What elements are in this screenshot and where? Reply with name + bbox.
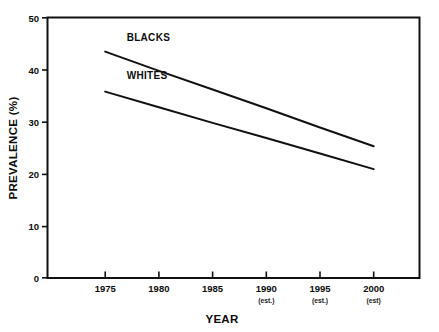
y-tick-label-0: 0 [34, 273, 39, 284]
y-tick-label-10: 10 [28, 221, 39, 232]
x-tick-label-2000: 2000 [363, 283, 384, 294]
y-axis-title: PREVALENCE (%) [7, 96, 19, 199]
x-tick-label-1990: 1990 [256, 283, 277, 294]
y-tick-label-30: 30 [28, 117, 39, 128]
x-tick-sublabel-1990: (est.) [258, 297, 274, 305]
chart-figure: 50 40 30 20 10 0 PREVALENCE (%) 1975 198… [0, 0, 439, 332]
x-tick-label-1975: 1975 [95, 283, 117, 294]
x-tick-label-1985: 1985 [202, 283, 224, 294]
y-tick-label-40: 40 [28, 65, 39, 76]
series-label-blacks: BLACKS [127, 32, 170, 43]
y-tick-label-20: 20 [28, 169, 39, 180]
x-axis-title: YEAR [205, 313, 239, 325]
y-tick-label-50: 50 [28, 13, 39, 24]
x-tick-label-1980: 1980 [148, 283, 169, 294]
x-tick-sublabel-2000: (est) [367, 297, 381, 305]
x-tick-label-1995: 1995 [309, 283, 331, 294]
x-tick-sublabel-1995: (est.) [312, 297, 328, 305]
prevalence-by-year-line-chart: 50 40 30 20 10 0 PREVALENCE (%) 1975 198… [0, 0, 439, 332]
series-label-whites: WHITES [127, 70, 168, 81]
